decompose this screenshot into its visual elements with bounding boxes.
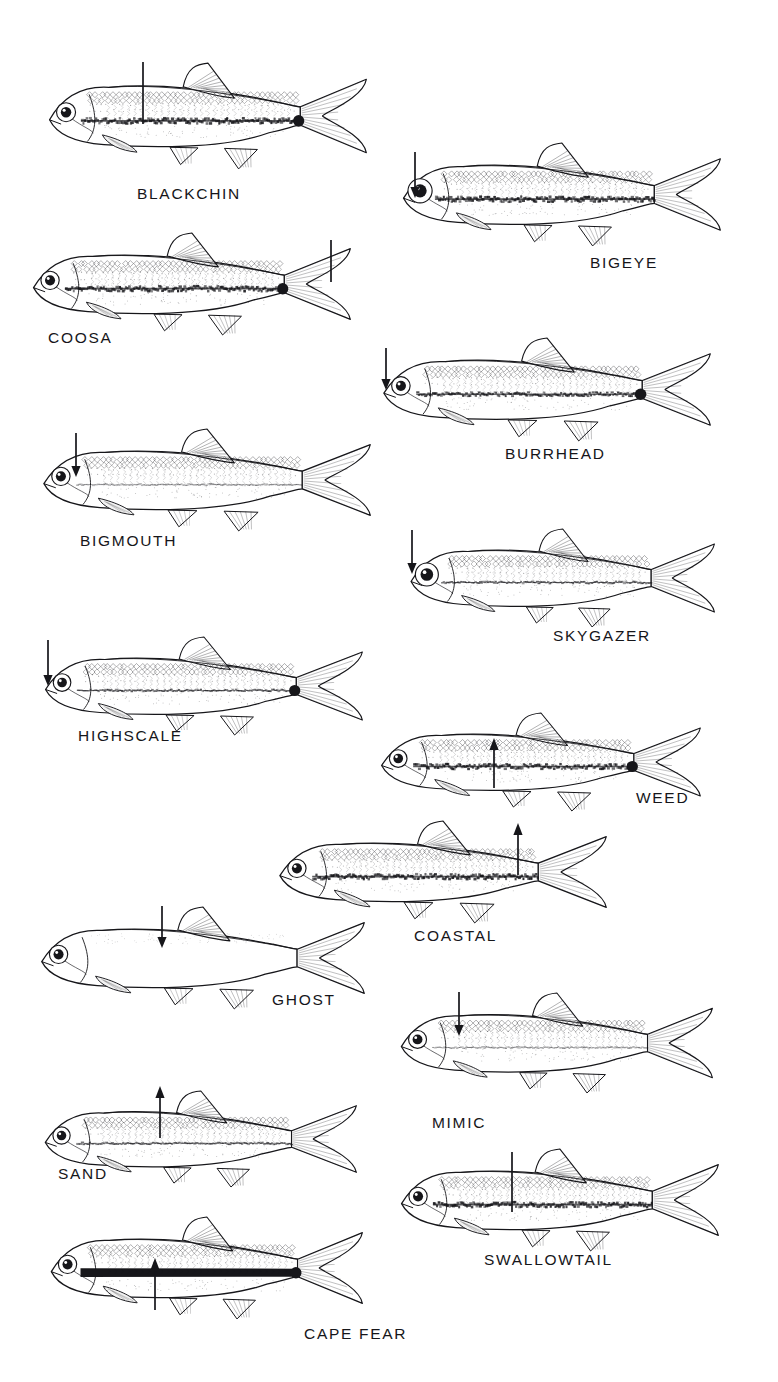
species-label-cape-fear: CAPE FEAR <box>304 1326 407 1342</box>
fish-illustration-cape-fear <box>40 1216 364 1320</box>
species-figure-cape-fear: CAPE FEAR <box>0 0 778 1382</box>
feature-pointer-cape-fear <box>146 1258 164 1310</box>
illustration-plate: BLACKCHINBIGEYECOOSABURRHEADBIGMOUTHSKYG… <box>0 0 778 1382</box>
